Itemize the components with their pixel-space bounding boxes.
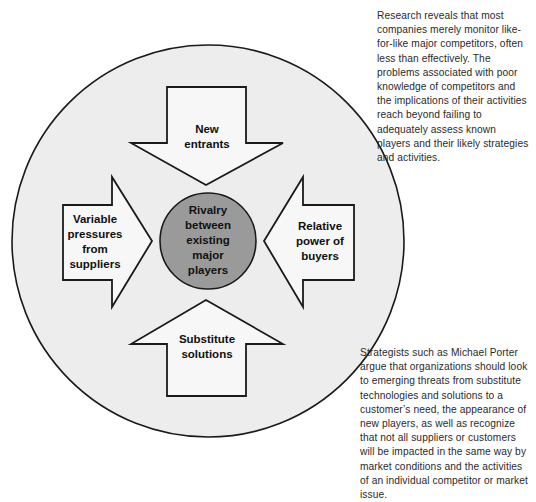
annotation-text-bottom: Strategists such as Michael Porter argue… (360, 346, 532, 502)
label-rivalry-line-1: Rivalry (189, 204, 228, 216)
label-buyers-line-2: power of (296, 235, 344, 247)
label-new-entrants-line-1: New (195, 123, 219, 135)
label-suppliers-line-4: suppliers (69, 258, 120, 270)
label-new-entrants-line-2: entrants (184, 138, 229, 150)
label-rivalry-line-4: major (192, 249, 224, 261)
annotation-text-top: Research reveals that most companies mer… (377, 9, 532, 165)
label-substitute-line-2: solutions (181, 348, 232, 360)
label-rivalry-line-3: existing (186, 234, 229, 246)
label-buyers-line-1: Relative (298, 220, 342, 232)
label-suppliers-line-1: Variable (73, 213, 117, 225)
label-suppliers-line-2: pressures (68, 228, 123, 240)
label-rivalry-line-2: between (185, 219, 231, 231)
label-substitute-line-1: Substitute (179, 333, 235, 345)
label-buyers-line-3: buyers (301, 250, 339, 262)
label-rivalry-line-5: players (188, 264, 228, 276)
label-suppliers-line-3: from (82, 243, 108, 255)
